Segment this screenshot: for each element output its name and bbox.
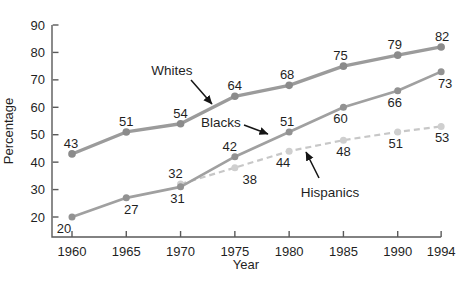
value-label: 60	[333, 111, 347, 126]
data-point-marker	[340, 137, 347, 144]
value-label: 75	[333, 48, 347, 63]
data-point-marker	[394, 87, 401, 94]
y-tick-label: 60	[31, 100, 45, 115]
data-point-marker	[394, 51, 402, 59]
value-label: 51	[280, 114, 294, 129]
annotation-arrow	[191, 80, 212, 104]
y-tick-label: 20	[31, 210, 45, 225]
value-label: 66	[387, 95, 401, 110]
line-chart-figure: 2030405060708090196019651970197519801985…	[0, 0, 465, 282]
value-label: 54	[173, 106, 187, 121]
value-label: 73	[438, 76, 452, 91]
data-point-marker	[69, 214, 76, 221]
data-point-marker	[286, 128, 293, 135]
value-label: 38	[243, 172, 257, 187]
data-point-marker	[122, 128, 130, 136]
value-label: 64	[228, 78, 242, 93]
series-name-label: Blacks	[201, 115, 241, 130]
value-label: 51	[388, 136, 402, 151]
annotation-arrow	[244, 125, 268, 134]
percentage-by-year-line-chart: 2030405060708090196019651970197519801985…	[0, 0, 465, 282]
annotation-whites: Whites	[151, 63, 212, 104]
value-label: 43	[64, 136, 78, 151]
x-tick-label: 1990	[383, 244, 412, 259]
value-label: 51	[119, 114, 133, 129]
value-label: 32	[168, 166, 182, 181]
value-label: 48	[336, 144, 350, 159]
annotation-arrow	[306, 152, 319, 178]
annotation-hispanics: Hispanics	[301, 152, 360, 200]
x-tick-label: 1985	[329, 244, 358, 259]
data-point-marker	[285, 82, 293, 90]
x-tick-label: 1960	[58, 244, 87, 259]
x-tick-label: 1994	[427, 244, 456, 259]
data-point-marker	[231, 153, 238, 160]
y-tick-label: 50	[31, 127, 45, 142]
data-point-marker	[177, 120, 185, 128]
data-point-marker	[438, 68, 445, 75]
data-point-marker	[340, 104, 347, 111]
data-point-marker	[286, 148, 293, 155]
data-point-marker	[123, 194, 130, 201]
y-tick-label: 80	[31, 45, 45, 60]
data-point-marker	[437, 43, 445, 51]
x-tick-label: 1980	[275, 244, 304, 259]
value-label: 31	[170, 191, 184, 206]
y-tick-label: 30	[31, 182, 45, 197]
data-point-marker	[231, 164, 238, 171]
series-line	[72, 47, 441, 154]
x-tick-label: 1970	[166, 244, 195, 259]
series-name-label: Hispanics	[301, 185, 360, 200]
value-label: 20	[57, 221, 71, 236]
data-point-marker	[340, 62, 348, 70]
data-point-marker	[68, 150, 76, 158]
data-point-marker	[438, 123, 445, 130]
x-tick-label: 1965	[112, 244, 141, 259]
x-axis-title: Year	[233, 257, 260, 272]
value-label: 44	[276, 155, 290, 170]
data-point-marker	[394, 128, 401, 135]
y-tick-label: 70	[31, 72, 45, 87]
y-axis-title: Percentage	[1, 98, 16, 165]
value-label: 82	[435, 29, 449, 44]
annotation-blacks: Blacks	[201, 115, 268, 134]
value-label: 42	[223, 139, 237, 154]
data-point-marker	[177, 183, 184, 190]
series-name-label: Whites	[151, 63, 193, 78]
y-tick-label: 40	[31, 155, 45, 170]
series-hispanics: 323844485153	[168, 123, 449, 188]
value-label: 79	[387, 37, 401, 52]
y-tick-label: 90	[31, 18, 45, 33]
value-label: 27	[124, 202, 138, 217]
data-point-marker	[231, 93, 239, 101]
value-label: 68	[280, 67, 294, 82]
value-label: 53	[435, 130, 449, 145]
